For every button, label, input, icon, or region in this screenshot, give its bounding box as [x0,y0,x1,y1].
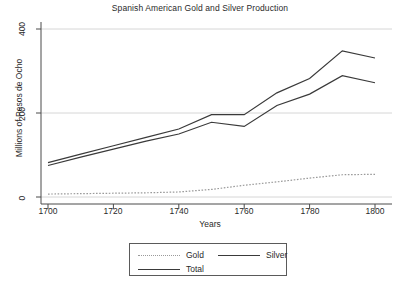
chart-legend: Gold Silver Total [129,243,287,276]
gridlines [41,29,392,197]
legend-swatch-gold [138,255,180,256]
legend-label-total: Total [186,264,204,274]
x-tick-marks [48,204,375,209]
series-line-silver [48,76,375,166]
legend-swatch-total [138,269,180,270]
chart-figure: Spanish American Gold and Silver Product… [0,0,400,287]
series-line-total [48,51,375,163]
legend-swatch-silver [218,255,260,256]
series-line-gold [48,174,375,194]
legend-label-silver: Silver [266,250,287,260]
legend-label-gold: Gold [186,250,204,260]
y-tick-marks [36,29,41,197]
